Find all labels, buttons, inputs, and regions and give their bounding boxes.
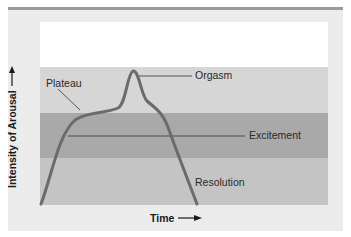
arousal-curve bbox=[41, 71, 197, 204]
label-orgasm: Orgasm bbox=[195, 69, 232, 81]
up-arrow-icon bbox=[8, 66, 16, 86]
label-resolution: Resolution bbox=[195, 176, 245, 188]
x-axis-label: Time bbox=[150, 212, 202, 224]
x-axis-text: Time bbox=[150, 212, 174, 224]
plateau-leader-line bbox=[58, 89, 80, 110]
y-axis-text: Intensity of Arousal bbox=[6, 90, 18, 188]
label-excitement: Excitement bbox=[249, 129, 301, 141]
y-axis-label: Intensity of Arousal bbox=[6, 66, 18, 188]
response-curve bbox=[0, 0, 351, 237]
right-arrow-icon bbox=[178, 214, 202, 222]
label-plateau: Plateau bbox=[46, 77, 82, 89]
